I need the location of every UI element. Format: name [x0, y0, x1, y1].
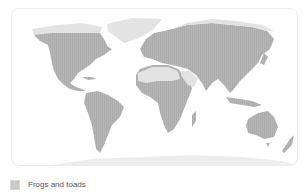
north-america-region	[34, 33, 112, 91]
legend-label-frogs: Frogs and toads	[28, 180, 86, 190]
tasmania-region	[266, 143, 270, 147]
world-map-svg	[12, 9, 297, 165]
indonesia-region	[226, 97, 262, 107]
australia-region	[246, 111, 278, 139]
new-zealand-region	[282, 135, 294, 153]
map-legend: Frogs and toads	[10, 180, 86, 190]
world-map	[11, 8, 298, 166]
legend-swatch-frogs	[10, 180, 20, 190]
south-america-region	[84, 91, 124, 153]
caribbean-region	[82, 77, 96, 80]
antarctica-region	[52, 155, 297, 165]
madagascar-region	[192, 111, 196, 127]
